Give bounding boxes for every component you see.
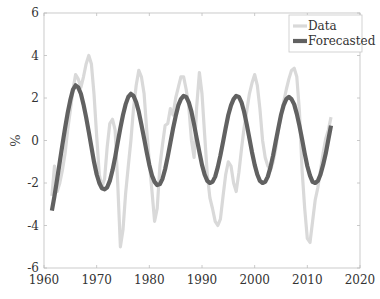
legend: DataForecasted <box>289 15 376 52</box>
y-tick-label: -4 <box>27 219 39 233</box>
y-axis-label: % <box>8 134 23 146</box>
legend-label-forecasted: Forecasted <box>308 34 376 48</box>
y-tick-label: 0 <box>31 134 39 148</box>
x-tick-label: 1990 <box>187 273 218 287</box>
x-tick-label: 2020 <box>345 273 376 287</box>
x-tick-label: 1960 <box>29 273 60 287</box>
y-tick-label: -6 <box>27 261 39 275</box>
x-tick-label: 2000 <box>239 273 270 287</box>
x-tick-label: 2010 <box>292 273 323 287</box>
legend-label-data: Data <box>308 19 337 33</box>
y-tick-label: 6 <box>31 6 39 20</box>
y-tick-label: 2 <box>31 91 39 105</box>
y-tick-label: -2 <box>27 176 39 190</box>
line-chart: 1960197019801990200020102020-6-4-20246% … <box>0 0 380 299</box>
y-tick-label: 4 <box>31 49 39 63</box>
x-tick-label: 1970 <box>81 273 112 287</box>
x-tick-label: 1980 <box>134 273 165 287</box>
plot-area <box>52 56 331 247</box>
